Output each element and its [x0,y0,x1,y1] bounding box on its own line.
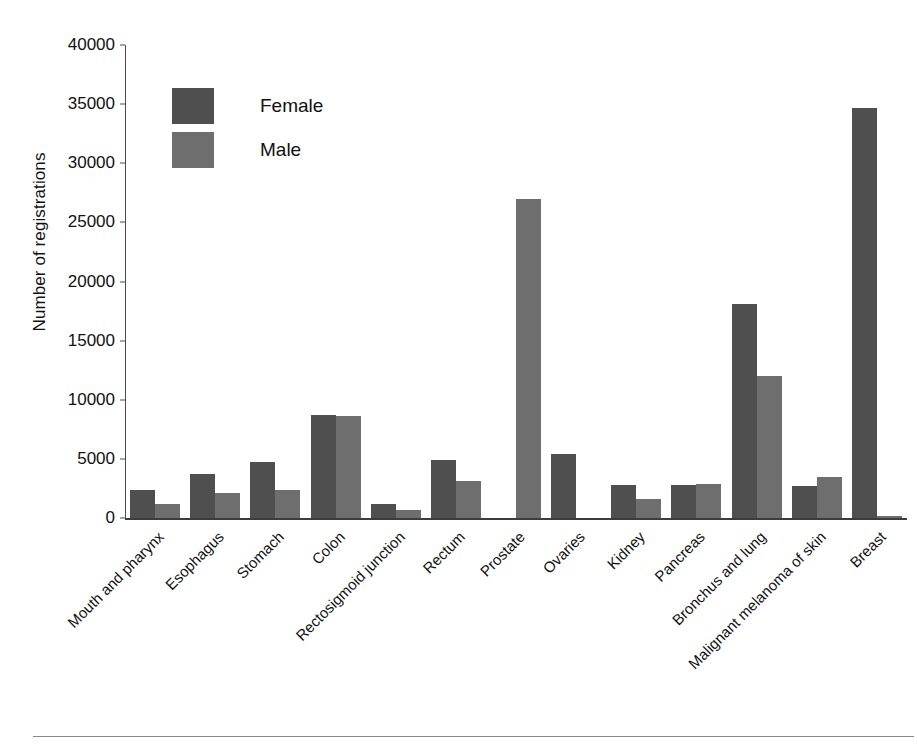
y-axis-tick-label: 40000 [5,35,115,55]
bar-female [311,415,336,518]
x-axis-category-label: Mouth and pharynx [0,528,167,749]
y-axis-tick-label: 10000 [5,390,115,410]
bar-male [396,510,421,518]
bar-female [671,485,696,518]
bottom-divider [33,736,914,737]
legend-item-female[interactable]: Female [172,84,412,128]
y-axis-tick-label: 20000 [5,272,115,292]
bar-male [757,376,782,518]
bar-male [516,199,541,518]
y-axis-tick-label: 25000 [5,212,115,232]
bar-male [155,504,180,518]
chart-legend: Female Male [172,84,412,172]
bar-female [611,485,636,518]
bar-male [877,516,902,518]
legend-label-male: Male [260,139,301,161]
chart-figure: Number of registrations 0500010000150002… [0,0,917,749]
bar-female [371,504,396,518]
bar-female [852,108,877,518]
legend-swatch-icon-female [172,88,214,124]
x-axis-category-labels: Mouth and pharynxEsophagusStomachColonRe… [125,520,907,720]
bar-male [696,484,721,518]
y-axis-tick-label: 5000 [5,449,115,469]
bar-male [215,493,240,518]
y-axis-tick-label: 15000 [5,331,115,351]
bar-female [250,462,275,518]
bar-female [792,486,817,518]
y-axis-tick-label: 0 [5,508,115,528]
bar-male [275,490,300,518]
y-axis-tick-label: 30000 [5,153,115,173]
bar-female [732,304,757,518]
bar-female [130,490,155,518]
bar-female [551,454,576,518]
bar-male [336,416,361,518]
bar-male [636,499,661,518]
bar-female [431,460,456,518]
bar-male [817,477,842,518]
bar-male [456,481,481,518]
y-axis-tick-label: 35000 [5,94,115,114]
bar-female [190,474,215,518]
legend-label-female: Female [260,95,323,117]
x-axis-category-label: Esophagus [0,528,227,749]
legend-item-male[interactable]: Male [172,128,412,172]
legend-swatch-icon-male [172,132,214,168]
y-axis-tick-labels: 0500010000150002000025000300003500040000 [0,45,115,518]
